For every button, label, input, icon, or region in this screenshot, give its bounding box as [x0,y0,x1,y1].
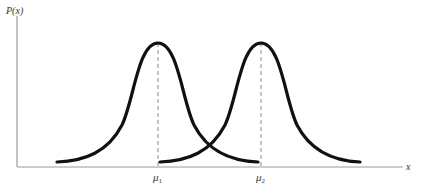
curve-2 [160,43,360,162]
mu2-label: μ2 [255,171,266,185]
mu1-label: μ1 [152,171,163,185]
x-axis-label: x [405,161,411,172]
two-distributions-diagram: P(x) x μ1 μ2 [0,0,423,191]
y-axis-label: P(x) [5,5,24,17]
